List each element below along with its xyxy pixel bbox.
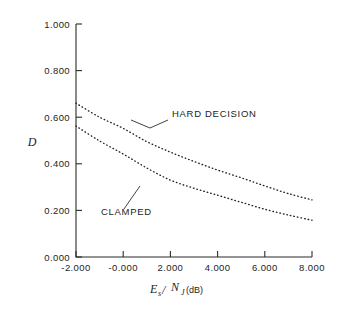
leader-line-hard-decision xyxy=(131,120,168,128)
y-tick-marks xyxy=(76,24,82,257)
x-tick-label: -2.000 xyxy=(61,262,90,273)
x-tick-label: -0.000 xyxy=(109,262,138,273)
y-tick-label: 0.000 xyxy=(44,252,70,263)
x-tick-label: 6.000 xyxy=(252,262,278,273)
x-axis-title: E s / N J (dB) xyxy=(149,280,203,298)
x-tick-label: 2.000 xyxy=(158,262,184,273)
x-tick-marks xyxy=(76,251,312,257)
y-tick-label: 0.400 xyxy=(44,158,70,169)
y-tick-label: 0.200 xyxy=(44,205,70,216)
x-axis-title-sub-j: J xyxy=(181,288,185,297)
chart-canvas: 1.000 0.800 0.600 0.400 0.200 0.000 -2.0… xyxy=(0,0,339,310)
figure-container: 1.000 0.800 0.600 0.400 0.200 0.000 -2.0… xyxy=(0,0,339,310)
series-label-hard-decision: HARD DECISION xyxy=(172,108,257,119)
y-axis-title: D xyxy=(27,135,37,149)
y-tick-label: 1.000 xyxy=(44,19,70,30)
axis-lines xyxy=(76,24,312,257)
y-tick-labels: 1.000 0.800 0.600 0.400 0.200 0.000 xyxy=(44,19,70,263)
series-label-clamped: CLAMPED xyxy=(101,206,152,217)
x-tick-label: 4.000 xyxy=(205,262,231,273)
y-tick-label: 0.600 xyxy=(44,112,70,123)
x-axis-title-base-n: N xyxy=(170,280,180,294)
x-tick-labels: -2.000 -0.000 2.000 4.000 6.000 8.000 xyxy=(61,262,325,273)
x-axis-title-base-e: E xyxy=(149,282,158,296)
y-tick-label: 0.800 xyxy=(44,65,70,76)
x-tick-label: 8.000 xyxy=(299,262,325,273)
annotation-hard-decision: HARD DECISION xyxy=(131,108,257,128)
x-axis-title-sub-s: s xyxy=(158,289,161,298)
x-axis-title-unit: (dB) xyxy=(186,285,203,295)
annotation-clamped: CLAMPED xyxy=(101,186,152,217)
x-axis-title-slash: / xyxy=(161,283,167,297)
